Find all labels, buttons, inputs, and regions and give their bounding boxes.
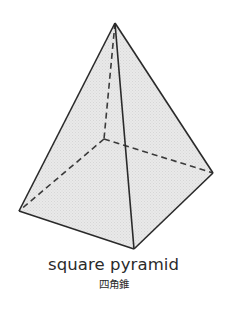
square-pyramid-figure	[0, 0, 227, 260]
left-front-face	[19, 23, 134, 249]
caption-japanese: 四角錐	[0, 276, 227, 291]
square-pyramid-diagram	[0, 0, 227, 260]
caption-english: square pyramid	[0, 255, 227, 274]
